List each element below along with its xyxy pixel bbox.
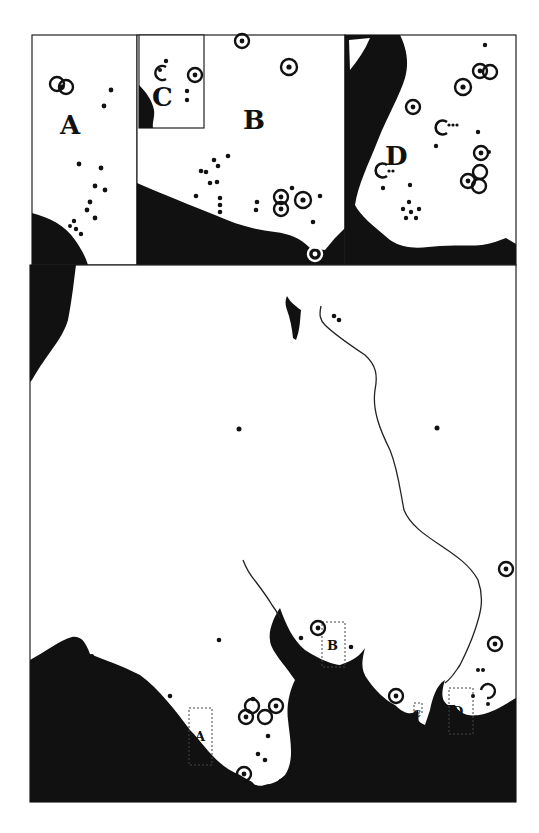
inset-a: A: [32, 35, 137, 265]
map-figure: A: [0, 0, 539, 833]
inset-c: C: [139, 35, 204, 128]
locator-label-c: C: [413, 708, 421, 719]
main-map: A B C D: [30, 265, 516, 802]
inset-label-c: C: [152, 82, 173, 112]
inset-label-a: A: [59, 110, 81, 140]
inset-label-d: D: [385, 141, 408, 171]
inset-label-b: B: [243, 105, 265, 135]
inset-d: D: [345, 35, 516, 265]
locator-label-d: D: [452, 704, 463, 719]
locator-label-b: B: [327, 638, 338, 653]
inset-row: A: [32, 34, 516, 265]
locator-label-a: A: [194, 729, 206, 744]
